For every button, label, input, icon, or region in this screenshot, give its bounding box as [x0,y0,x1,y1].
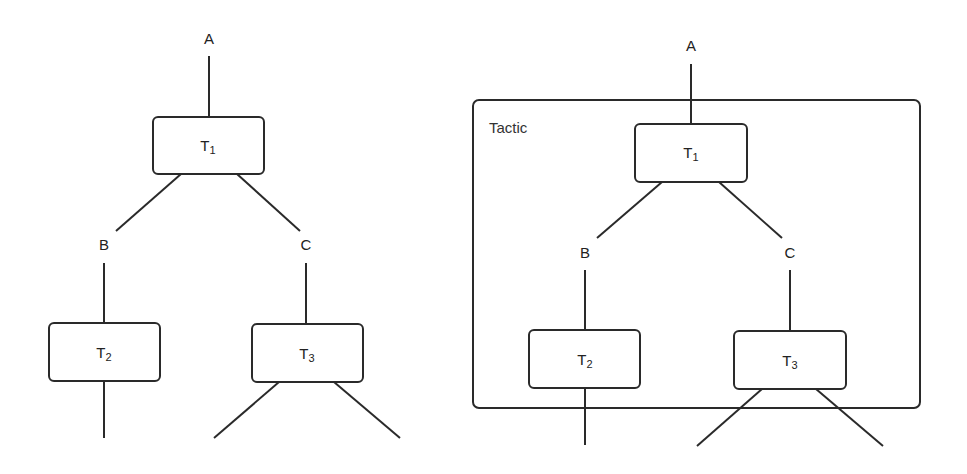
left-node-t2-base: T [96,344,105,361]
left-edge-t1-to-c [237,174,300,231]
right-node-t1-base: T [683,144,692,161]
right-edge-t1-to-b [597,182,662,238]
right-edge-t3-out-right [816,389,883,446]
right-tree [473,64,920,446]
diagram-canvas [0,0,967,474]
left-edge-t1-to-b [116,174,181,231]
right-edge-label-c: C [785,245,796,260]
right-edge-label-b: B [580,245,590,260]
left-node-t1-subscript: 1 [210,144,216,156]
left-node-t3-base: T [299,345,308,362]
left-edge-label-a: A [204,31,214,46]
left-node-t3-label: T3 [299,346,314,361]
right-node-t3-subscript: 3 [792,359,798,371]
right-node-t3-label: T3 [782,353,797,368]
right-node-t1-subscript: 1 [693,151,699,163]
right-node-t2-base: T [577,351,586,368]
right-node-t2-label: T2 [577,352,592,367]
left-edge-t3-out-right [334,382,400,438]
left-node-t2-label: T2 [96,345,111,360]
left-node-t1-base: T [200,137,209,154]
right-edge-t1-to-c [719,182,782,238]
right-node-t2-subscript: 2 [587,358,593,370]
left-edge-label-c: C [301,237,312,252]
tactic-frame-label: Tactic [489,120,527,135]
right-edge-label-a: A [686,38,696,53]
right-node-t1-label: T1 [683,145,698,160]
right-node-t3-base: T [782,352,791,369]
left-edge-t3-out-left [214,382,279,438]
left-node-t1-label: T1 [200,138,215,153]
left-node-t2-subscript: 2 [106,351,112,363]
right-edge-t3-out-left [697,389,762,446]
left-node-t3-subscript: 3 [309,352,315,364]
left-edge-label-b: B [99,237,109,252]
